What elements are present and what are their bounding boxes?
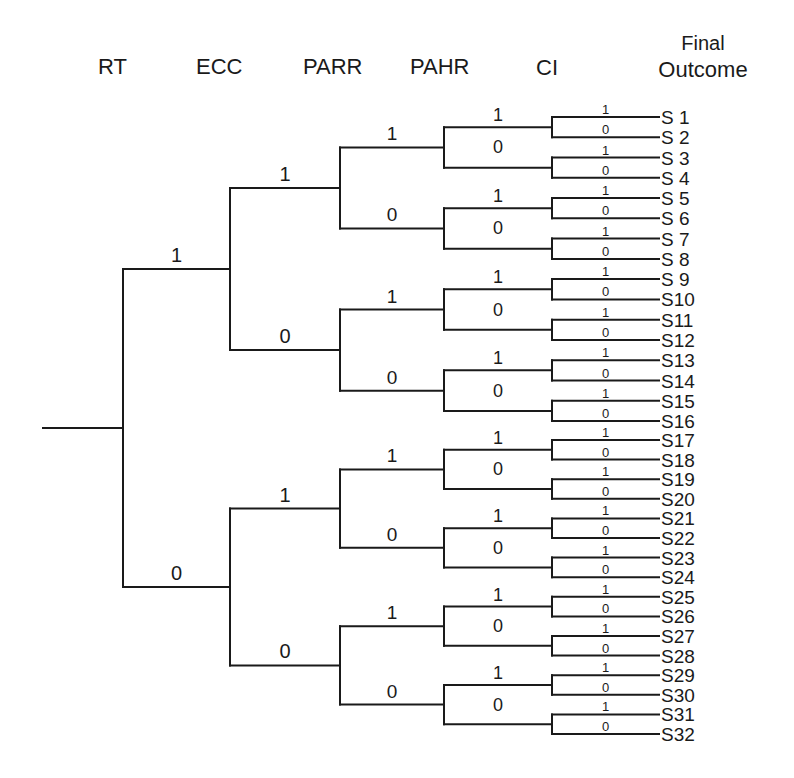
- ci-label-0: 0: [602, 445, 609, 460]
- outcome-label-s29: S29: [661, 665, 695, 686]
- outcome-label-s12: S12: [661, 330, 695, 351]
- outcome-label-s30: S30: [661, 685, 695, 706]
- pahr-label-1: 1: [493, 267, 503, 287]
- outcome-label-s10: S10: [661, 289, 695, 310]
- parr-label-0: 0: [387, 204, 398, 225]
- outcome-label-s3: S 3: [661, 148, 690, 169]
- ci-label-1: 1: [602, 621, 609, 636]
- pahr-label-1: 1: [493, 663, 503, 683]
- parr-label-1: 1: [387, 123, 398, 144]
- outcome-label-s21: S21: [661, 508, 695, 529]
- ci-label-1: 1: [602, 305, 609, 320]
- ecc-label-1: 1: [279, 163, 290, 185]
- outcome-label-s7: S 7: [661, 229, 690, 250]
- ecc-label-0: 0: [279, 325, 290, 347]
- ci-label-0: 0: [602, 406, 609, 421]
- parr-label-1: 1: [387, 286, 398, 307]
- ci-label-0: 0: [602, 366, 609, 381]
- ci-label-0: 0: [602, 244, 609, 259]
- outcome-label-s5: S 5: [661, 188, 690, 209]
- outcome-label-s1: S 1: [661, 107, 690, 128]
- ci-label-1: 1: [602, 582, 609, 597]
- pahr-label-0: 0: [493, 300, 503, 320]
- pahr-label-1: 1: [493, 105, 503, 125]
- outcome-label-s6: S 6: [661, 208, 690, 229]
- ci-label-0: 0: [602, 484, 609, 499]
- ci-label-1: 1: [602, 345, 609, 360]
- ci-label-0: 0: [602, 680, 609, 695]
- ci-label-0: 0: [602, 601, 609, 616]
- pahr-label-0: 0: [493, 695, 503, 715]
- ci-label-0: 0: [602, 163, 609, 178]
- ci-label-1: 1: [602, 660, 609, 675]
- pahr-label-1: 1: [493, 186, 503, 206]
- parr-label-1: 1: [387, 445, 398, 466]
- ecc-label-1: 1: [279, 484, 290, 506]
- outcome-label-s31: S31: [661, 704, 695, 725]
- outcome-label-s8: S 8: [661, 249, 690, 270]
- outcome-label-s26: S26: [661, 606, 695, 627]
- outcome-label-s15: S15: [661, 391, 695, 412]
- outcome-label-s28: S28: [661, 646, 695, 667]
- ci-label-1: 1: [602, 183, 609, 198]
- pahr-label-0: 0: [493, 616, 503, 636]
- rt-label-0: 0: [171, 562, 182, 584]
- ci-label-1: 1: [602, 503, 609, 518]
- outcome-label-s25: S25: [661, 587, 695, 608]
- outcome-label-s4: S 4: [661, 168, 690, 189]
- outcome-label-s24: S24: [661, 567, 695, 588]
- ci-label-1: 1: [602, 425, 609, 440]
- ci-label-0: 0: [602, 562, 609, 577]
- outcome-label-s18: S18: [661, 450, 695, 471]
- ci-label-0: 0: [602, 325, 609, 340]
- outcome-label-s20: S20: [661, 489, 695, 510]
- ci-label-0: 0: [602, 641, 609, 656]
- ci-label-1: 1: [602, 102, 609, 117]
- parr-label-1: 1: [387, 602, 398, 623]
- ci-label-1: 1: [602, 224, 609, 239]
- outcome-label-s9: S 9: [661, 269, 690, 290]
- outcome-label-s22: S22: [661, 528, 695, 549]
- ci-label-1: 1: [602, 699, 609, 714]
- ci-label-1: 1: [602, 386, 609, 401]
- parr-label-0: 0: [387, 524, 398, 545]
- outcome-label-s17: S17: [661, 430, 695, 451]
- pahr-label-1: 1: [493, 348, 503, 368]
- ci-label-1: 1: [602, 264, 609, 279]
- pahr-label-1: 1: [493, 428, 503, 448]
- pahr-label-0: 0: [493, 218, 503, 238]
- pahr-label-0: 0: [493, 137, 503, 157]
- pahr-label-0: 0: [493, 538, 503, 558]
- ecc-label-0: 0: [279, 640, 290, 662]
- ci-label-1: 1: [602, 464, 609, 479]
- outcome-label-s16: S16: [661, 411, 695, 432]
- pahr-label-0: 0: [493, 381, 503, 401]
- ci-label-1: 1: [602, 543, 609, 558]
- outcome-label-s23: S23: [661, 548, 695, 569]
- pahr-label-0: 0: [493, 459, 503, 479]
- rt-label-1: 1: [171, 244, 182, 266]
- outcome-label-s32: S32: [661, 724, 695, 745]
- outcome-label-s14: S14: [661, 371, 695, 392]
- parr-label-0: 0: [387, 681, 398, 702]
- outcome-label-s19: S19: [661, 469, 695, 490]
- outcome-label-s11: S11: [661, 310, 693, 331]
- pahr-label-1: 1: [493, 585, 503, 605]
- tree-diagram: 1010101010101010101010101010101010101010…: [0, 0, 794, 778]
- outcome-label-s27: S27: [661, 626, 695, 647]
- outcome-label-s13: S13: [661, 350, 695, 371]
- ci-label-0: 0: [602, 719, 609, 734]
- ci-label-1: 1: [602, 143, 609, 158]
- parr-label-0: 0: [387, 367, 398, 388]
- outcome-label-s2: S 2: [661, 127, 690, 148]
- ci-label-0: 0: [602, 203, 609, 218]
- ci-label-0: 0: [602, 284, 609, 299]
- ci-label-0: 0: [602, 523, 609, 538]
- ci-label-0: 0: [602, 122, 609, 137]
- pahr-label-1: 1: [493, 506, 503, 526]
